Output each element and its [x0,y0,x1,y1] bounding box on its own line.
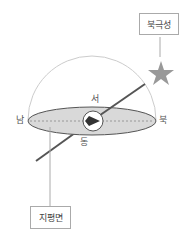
north-label: 북 [159,116,167,125]
polaris-star-icon [148,61,174,85]
south-label: 남 [16,116,24,125]
west-label: 서 [91,95,99,104]
polaris-label-box: 북극성 [139,13,179,35]
horizon-plane-label: 지평면 [39,211,63,224]
horizon-plane-label-box: 지평면 [30,206,71,229]
east-label: 동 [80,138,88,147]
polaris-label: 북극성 [147,18,171,31]
